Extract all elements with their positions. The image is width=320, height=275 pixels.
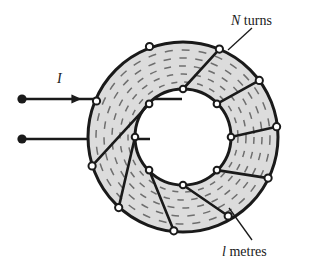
- current-arrow-icon: [63, 95, 80, 102]
- terminal-dot-top: [17, 94, 26, 103]
- winding-crossing-beads-inner: [132, 86, 235, 189]
- label-n-text: turns: [240, 13, 272, 28]
- leader-line-n-turns: [228, 28, 252, 50]
- label-l-metres: l metres: [222, 245, 267, 259]
- label-n-turns: N turns: [231, 14, 272, 28]
- toroid-diagram-svg: [0, 0, 320, 275]
- label-n-symbol: N: [231, 13, 240, 28]
- label-current-i: I: [57, 72, 62, 86]
- label-l-text: metres: [226, 244, 267, 259]
- terminal-dot-bottom: [17, 134, 26, 143]
- figure-canvas: N turns l metres I: [0, 0, 320, 275]
